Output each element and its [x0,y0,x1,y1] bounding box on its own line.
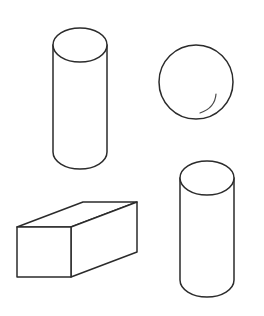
cuboid-front-face [17,227,71,277]
shape-cuboid-lower-left[interactable] [17,202,137,277]
shapes-canvas [0,0,264,316]
cylinder-top-cap [53,28,107,62]
sphere-outline [159,45,233,119]
shape-sphere-upper-right[interactable] [159,45,233,119]
shapes-svg [0,0,264,316]
cylinder-body [53,45,107,169]
shape-cylinder-upper-left[interactable] [53,28,107,169]
cylinder-top-cap [180,161,234,195]
cylinder-body [180,178,234,297]
shape-cylinder-lower-right[interactable] [180,161,234,297]
